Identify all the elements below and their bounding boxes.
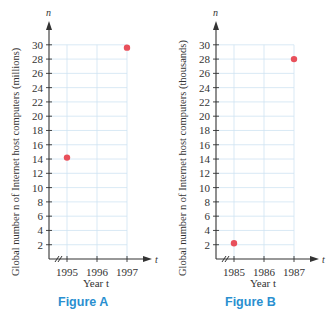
x-axis-label-a: Year t (83, 277, 109, 289)
y-axis-arrow-icon (46, 21, 52, 30)
x-axis-arrow-icon (143, 256, 152, 262)
y-tick-label: 18 (32, 124, 44, 136)
y-tick-label: 26 (199, 67, 211, 79)
y-tick-label: 14 (32, 153, 44, 165)
y-tick-label: 6 (205, 210, 211, 222)
y-axis-symbol: n (213, 7, 218, 18)
y-tick-label: 24 (199, 82, 211, 94)
y-tick-label: 8 (205, 196, 211, 208)
x-axis-arrow-icon (310, 256, 319, 262)
x-axis-label-b: Year t (250, 277, 276, 289)
x-tick-label: 1987 (283, 266, 306, 278)
y-axis-label-a: Global number n of Internet host compute… (10, 48, 21, 276)
data-point (291, 56, 297, 62)
x-tick-label: 1997 (116, 266, 139, 278)
x-tick-label: 1995 (56, 266, 79, 278)
y-tick-label: 4 (38, 224, 44, 236)
y-tick-label: 28 (199, 53, 211, 65)
y-axis-arrow-icon (213, 21, 219, 30)
x-axis-symbol: t (155, 254, 158, 265)
y-tick-label: 2 (38, 239, 44, 251)
y-tick-label: 20 (32, 110, 44, 122)
data-point (124, 44, 130, 50)
y-tick-label: 30 (32, 39, 44, 51)
y-tick-label: 12 (199, 167, 210, 179)
x-tick-label: 1985 (223, 266, 246, 278)
y-tick-label: 8 (38, 196, 44, 208)
y-tick-label: 22 (199, 96, 210, 108)
y-axis-symbol: n (46, 7, 51, 18)
chart-a-plot: nt24681012141618202224262830199519961997 (0, 0, 167, 320)
y-tick-label: 14 (199, 153, 211, 165)
y-tick-label: 10 (199, 182, 211, 194)
y-axis-label-b: Global number n of Internet host compute… (177, 40, 188, 276)
y-tick-label: 10 (32, 182, 44, 194)
figure-a-caption: Figure A (58, 295, 108, 309)
chart-b-plot: nt24681012141618202224262830198519861987 (167, 0, 334, 320)
y-tick-label: 28 (32, 53, 44, 65)
x-axis-symbol: t (322, 254, 325, 265)
y-tick-label: 22 (32, 96, 43, 108)
figure-b-caption: Figure B (225, 295, 276, 309)
data-point (64, 154, 70, 160)
y-tick-label: 16 (199, 139, 211, 151)
y-tick-label: 2 (205, 239, 211, 251)
y-tick-label: 12 (32, 167, 43, 179)
y-tick-label: 4 (205, 224, 211, 236)
y-tick-label: 18 (199, 124, 211, 136)
figure-a: nt24681012141618202224262830199519961997… (0, 0, 167, 320)
data-point (231, 240, 237, 246)
y-tick-label: 16 (32, 139, 44, 151)
figure-b: nt24681012141618202224262830198519861987… (167, 0, 334, 320)
grid (49, 45, 127, 259)
y-tick-label: 30 (199, 39, 211, 51)
y-tick-label: 20 (199, 110, 211, 122)
y-tick-label: 6 (38, 210, 44, 222)
y-tick-label: 24 (32, 82, 44, 94)
y-tick-label: 26 (32, 67, 44, 79)
grid (216, 45, 294, 259)
